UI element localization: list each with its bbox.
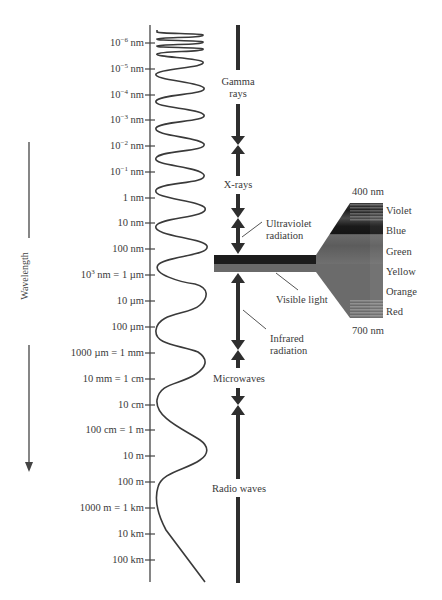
axis-tick-label: 10−4 nm: [110, 89, 144, 101]
wavelength-axis-label: Wavelength: [19, 252, 30, 300]
axis-tick-label: 10−6 nm: [110, 37, 144, 49]
color-orange: Orange: [386, 286, 417, 298]
axis-tick-label: 1000 m = 1 km: [80, 502, 144, 514]
radio-waves-label: Radio waves: [206, 483, 272, 495]
color-blue: Blue: [386, 225, 406, 237]
axis-tick-label: 10 m: [123, 450, 144, 462]
x-rays-label: X-rays: [214, 179, 262, 191]
axis-tick-label: 103 nm = 1 µm: [81, 269, 144, 281]
infrared-label: Infrared radiation: [270, 333, 307, 357]
axis-tick-label: 10−3 nm: [110, 114, 144, 126]
axis-tick-label: 10 nm: [117, 217, 144, 229]
axis-tick-label: 10 µm: [117, 295, 144, 307]
wavelength-400nm-label: 400 nm: [352, 186, 384, 198]
wavelength-700nm-label: 700 nm: [352, 325, 384, 337]
color-red: Red: [386, 306, 403, 318]
axis-tick-label: 100 µm: [111, 321, 144, 333]
axis-tick-label: 1000 µm = 1 mm: [71, 347, 144, 359]
axis-tick-label: 100 m: [117, 476, 144, 488]
wavelength-axis: [145, 25, 155, 582]
color-yellow: Yellow: [386, 266, 416, 278]
color-green: Green: [386, 246, 412, 258]
wave-curve: [156, 30, 207, 582]
wavelength-arrow: [25, 142, 33, 472]
color-violet: Violet: [386, 205, 412, 217]
axis-tick-label: 100 nm: [112, 243, 144, 255]
axis-tick-label: 10−2 nm: [110, 140, 144, 152]
band-divider-bar: [231, 25, 245, 583]
ultraviolet-label: Ultraviolet radiation: [266, 218, 312, 242]
axis-tick-label: 10 km: [117, 528, 144, 540]
axis-tick-label: 10 mm = 1 cm: [83, 373, 144, 385]
electromagnetic-spectrum-diagram: 10−6 nm10−5 nm10−4 nm10−3 nm10−2 nm10−1 …: [0, 0, 442, 600]
axis-tick-label: 10−5 nm: [110, 63, 144, 75]
axis-tick-label: 10 cm: [118, 399, 144, 411]
gamma-rays-label: Gamma rays: [214, 76, 262, 100]
axis-tick-label: 100 cm = 1 m: [86, 424, 144, 436]
axis-tick-label: 100 km: [112, 554, 144, 566]
axis-tick-label: 10−1 nm: [110, 166, 144, 178]
microwaves-label: Microwaves: [208, 373, 270, 385]
axis-tick-label: 1 nm: [123, 192, 144, 204]
visible-light-label: Visible light: [276, 294, 328, 306]
